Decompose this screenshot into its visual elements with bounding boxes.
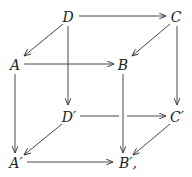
node-a: A (10, 58, 20, 72)
arrow-cprime-to-bprime (133, 124, 170, 155)
arrow-c-to-b (132, 24, 170, 56)
arrow-d-to-a (24, 24, 63, 56)
cube-diagram-arrows (0, 0, 192, 177)
node-c-prime: C′ (170, 110, 184, 124)
node-d: D (62, 10, 73, 24)
node-c: C (171, 10, 182, 24)
arrow-dprime-to-aprime (24, 124, 62, 155)
node-a-prime: A′ (9, 156, 22, 170)
node-b-prime: B′, (119, 156, 137, 170)
node-b: B (118, 58, 128, 72)
node-d-prime: D′ (62, 110, 76, 124)
